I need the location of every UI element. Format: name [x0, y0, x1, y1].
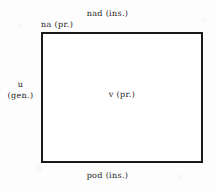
label-u-case: (gen.) — [0, 90, 41, 101]
label-pod-instrumental: pod (ins.) — [0, 171, 215, 181]
label-u-genitive: u (gen.) — [0, 79, 41, 101]
preposition-case-diagram: nad (ins.) na (pr.) u (gen.) v (pr.) pod… — [0, 0, 215, 192]
label-na-prepositional: na (pr.) — [41, 20, 73, 30]
label-u-preposition: u — [0, 79, 41, 90]
label-nad-instrumental: nad (ins.) — [0, 9, 215, 19]
label-v-prepositional: v (pr.) — [41, 90, 203, 100]
